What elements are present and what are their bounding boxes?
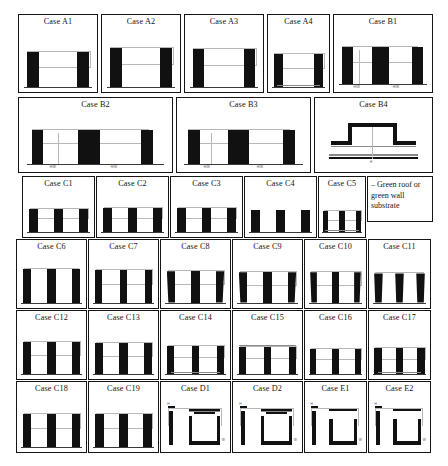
ground-line: [184, 164, 304, 165]
ground-line: [272, 87, 326, 88]
case-diagram-B1: H/WH/W: [334, 28, 432, 92]
dimension-leader: [58, 133, 59, 164]
dimension-rectangle: [375, 408, 423, 426]
building-block: [119, 414, 128, 446]
building-block: [339, 211, 344, 231]
dimension-label: W: [423, 439, 426, 442]
case-cell-C3: Case C3: [170, 176, 243, 238]
building-block: [283, 130, 294, 164]
case-diagram-C17: [369, 324, 430, 379]
case-title-C4: Case C4: [245, 177, 316, 190]
case-cell-E1: Case E1HW: [304, 381, 367, 453]
building-block: [416, 273, 425, 302]
case-diagram-E2: HW: [369, 395, 430, 452]
building-block: [47, 269, 55, 302]
case-title-C6: Case C6: [17, 240, 86, 253]
building-block: [342, 47, 353, 84]
building-block: [314, 54, 323, 87]
ground-line: [93, 374, 154, 375]
courtyard-floor: [261, 441, 293, 444]
building-block: [310, 272, 317, 302]
building-block: [193, 49, 205, 87]
courtyard-floor: [329, 441, 357, 444]
case-diagram-D2: HW: [233, 395, 302, 452]
ground-line: [24, 87, 93, 88]
dimension-leader: [211, 133, 212, 164]
case-cell-C15: Case C15: [232, 310, 303, 380]
roof-substrate: [331, 146, 415, 147]
case-diagram-C8: [161, 253, 230, 308]
dimension-label: H: [167, 403, 169, 406]
case-diagram-C5: [319, 190, 365, 237]
dimension-label: H: [374, 403, 376, 406]
building-block: [27, 52, 39, 87]
building-block: [276, 210, 285, 231]
dimension-label: H/W: [50, 166, 56, 169]
building-block: [239, 272, 247, 302]
case-diagram-C19: [89, 395, 158, 452]
building-block: [263, 272, 271, 302]
building-block: [379, 47, 390, 84]
case-diagram-B2: H/WH/W: [19, 111, 172, 172]
case-title-C12: Case C12: [17, 311, 86, 324]
case-title-D1: Case D1: [161, 382, 230, 395]
building-block: [23, 342, 31, 373]
plateau-right-shoulder: [397, 141, 416, 145]
case-diagram-E1: HW: [305, 395, 366, 452]
case-cell-C10: Case C10: [304, 239, 367, 309]
case-title-B3: Case B3: [177, 98, 310, 111]
ground-line: [21, 447, 82, 448]
building-block: [332, 349, 338, 374]
case-title-C18: Case C18: [17, 382, 86, 395]
building-block: [167, 271, 175, 302]
case-diagram-C10: [305, 253, 366, 308]
ground-line: [27, 232, 89, 233]
case-cell-B3: Case B3H/WH/W: [176, 97, 311, 173]
ground-line: [309, 303, 363, 304]
case-diagram-C7: [89, 253, 158, 308]
case-title-E1: Case E1: [305, 382, 366, 395]
building-block: [395, 273, 404, 302]
ground-line: [165, 303, 226, 304]
ground-line: [237, 303, 298, 304]
building-block: [289, 347, 297, 374]
case-diagram-A2: [102, 28, 180, 92]
case-diagram-C16: [305, 324, 366, 379]
case-title-B4: Case B4: [315, 98, 432, 111]
building-block: [23, 414, 31, 446]
dimension-label: H/W: [111, 166, 117, 169]
dimension-label: W: [222, 439, 225, 442]
case-cell-C17: Case C17: [368, 310, 431, 380]
case-cell-C18: Case C18: [16, 381, 87, 453]
case-title-C17: Case C17: [369, 311, 430, 324]
case-title-C3: Case C3: [171, 177, 242, 190]
case-diagram-A1: [19, 28, 97, 92]
building-block: [72, 414, 80, 446]
case-title-A3: Case A3: [185, 15, 263, 28]
case-title-B1: Case B1: [334, 15, 432, 28]
building-block: [374, 348, 381, 374]
building-block: [141, 130, 152, 164]
case-cell-C7: Case C7: [88, 239, 159, 309]
case-cell-B4: Case B4H: [314, 97, 433, 173]
dimension-label: H/W: [393, 86, 399, 89]
dimension-label: H/W: [257, 166, 263, 169]
case-diagram-C14: [161, 324, 230, 379]
case-title-C13: Case C13: [89, 311, 158, 324]
ground-line: [237, 374, 298, 375]
case-diagram-B3: H/WH/W: [177, 111, 310, 172]
case-title-C9: Case C9: [233, 240, 302, 253]
building-block: [119, 343, 127, 373]
ground-line: [190, 87, 259, 88]
case-cell-C14: Case C14: [160, 310, 231, 380]
case-cell-C5: Case C5: [318, 176, 366, 238]
building-block: [417, 348, 424, 374]
case-title-C1: Case C1: [23, 177, 94, 190]
dimension-label: H/W: [354, 86, 360, 89]
building-block: [396, 348, 403, 374]
ground-line: [21, 303, 82, 304]
building-block: [177, 208, 186, 232]
building-block: [89, 130, 100, 164]
building-block: [95, 343, 103, 373]
building-block: [244, 49, 256, 87]
